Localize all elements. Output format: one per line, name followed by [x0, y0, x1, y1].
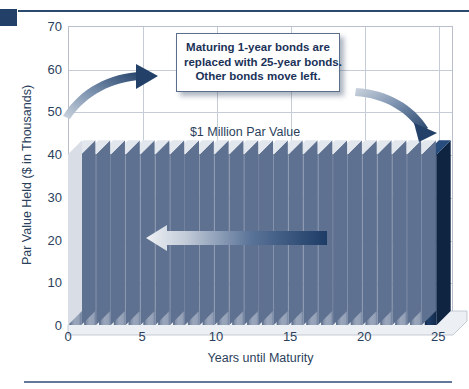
bottom-divider-rule [24, 381, 452, 383]
y-axis-title: Par Value Held ($ in Thousands) [20, 65, 34, 285]
x-tick-label: 20 [349, 330, 379, 343]
x-tick-label: 10 [201, 330, 231, 343]
x-tick-label: 25 [423, 330, 453, 343]
gridline-vertical [365, 27, 366, 325]
x-tick-label: 5 [127, 330, 157, 343]
par-value-label: $1 Million Par Value [150, 125, 340, 139]
gridline-horizontal [69, 241, 452, 242]
top-divider-rule [18, 10, 469, 12]
gridline-horizontal [69, 155, 452, 156]
gridline-horizontal [69, 112, 452, 113]
x-axis-line [68, 325, 453, 326]
gridline-horizontal [69, 198, 452, 199]
callout-line-2: replaced with 25-year bonds. [184, 55, 332, 70]
callout-line-1: Maturing 1-year bonds are [184, 40, 332, 55]
callout-line-3: Other bonds move left. [184, 69, 332, 84]
gridline-vertical [143, 27, 144, 325]
x-tick-label: 0 [53, 330, 83, 343]
y-tick-label: 70 [22, 20, 62, 33]
x-axis-title: Years until Maturity [68, 351, 453, 365]
gridline-vertical [439, 27, 440, 325]
gridline-horizontal [69, 283, 452, 284]
callout-box: Maturing 1-year bonds are replaced with … [176, 33, 340, 92]
x-tick-label: 15 [275, 330, 305, 343]
corner-marker-square [0, 9, 17, 26]
